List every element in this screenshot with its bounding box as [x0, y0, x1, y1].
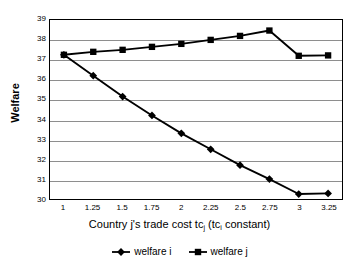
y-axis-tick-labels: 39383736353433323130: [24, 19, 46, 200]
y-axis-tick-label: 31: [24, 176, 46, 184]
data-point-marker: [325, 52, 331, 58]
data-point-marker: [266, 175, 274, 183]
series-line: [64, 31, 328, 56]
series-welfare-i: [60, 51, 332, 198]
data-point-marker: [90, 49, 96, 55]
x-axis-tick-label: 3.25: [309, 203, 349, 213]
series-welfare-j: [61, 27, 332, 59]
legend-item[interactable]: welfare j: [188, 246, 248, 257]
data-point-marker: [207, 145, 215, 153]
data-point-marker: [149, 44, 155, 50]
y-axis-tick-label: 37: [24, 55, 46, 63]
series-line: [64, 55, 328, 194]
data-point-marker: [295, 190, 303, 198]
legend-item-label: welfare i: [134, 246, 171, 257]
legend-square-marker-icon: [188, 247, 208, 257]
data-point-marker: [324, 190, 332, 198]
y-axis-tick-label: 38: [24, 35, 46, 43]
data-point-marker: [178, 41, 184, 47]
data-point-marker: [237, 33, 243, 39]
data-point-marker: [119, 47, 125, 53]
data-point-marker: [266, 27, 272, 33]
y-axis-title: Welfare: [4, 0, 26, 205]
series-plot: [50, 20, 342, 199]
legend-item-label: welfare j: [211, 246, 248, 257]
y-axis-title-label: Welfare: [9, 83, 21, 123]
legend-item[interactable]: welfare i: [111, 246, 171, 257]
y-axis-tick-label: 35: [24, 95, 46, 103]
x-axis-tick-labels: 11.251.51.7522.252.52.7533.25: [49, 203, 343, 215]
chart-legend: welfare iwelfare j: [0, 246, 359, 257]
y-axis-tick-label: 39: [24, 15, 46, 23]
y-axis-tick-label: 33: [24, 136, 46, 144]
data-point-marker: [207, 37, 213, 43]
y-axis-tick-label: 36: [24, 75, 46, 83]
data-point-marker: [296, 53, 302, 59]
data-point-marker: [194, 248, 200, 254]
data-point-marker: [236, 161, 244, 169]
y-axis-tick-label: 32: [24, 156, 46, 164]
x-axis-title-text: Country j's trade cost tcj (tci constant…: [89, 218, 270, 230]
plot-area: [49, 19, 343, 200]
data-point-marker: [117, 248, 125, 256]
chart-container: Welfare 39383736353433323130 11.251.51.7…: [0, 0, 359, 275]
legend-diamond-marker-icon: [111, 247, 131, 257]
data-point-marker: [61, 52, 67, 58]
x-axis-title: Country j's trade cost tcj (tci constant…: [0, 217, 359, 233]
y-axis-tick-label: 34: [24, 116, 46, 124]
